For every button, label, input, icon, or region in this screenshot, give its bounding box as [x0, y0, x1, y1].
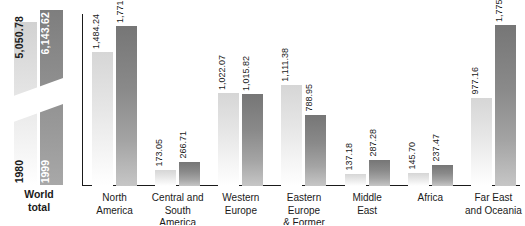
bar-value-1980: 1,022.07: [218, 55, 239, 90]
bar-1999: [242, 94, 263, 186]
bar-1980: [345, 174, 366, 186]
bar-value-1999: 237.47: [432, 134, 453, 162]
bar-1999: [495, 25, 516, 186]
bar-value-1980: 137.18: [345, 143, 366, 171]
world-total-year-1980: 1980: [14, 160, 37, 183]
bar-1999: [116, 26, 137, 186]
bar-value-1999: 1,015.82: [242, 56, 263, 91]
category-label-line1: Western: [209, 192, 272, 205]
category-label-line2: America: [83, 205, 146, 218]
regions-panel: 1,484.24 1,771.54 North America 173.05: [78, 14, 525, 225]
bar-1999: [305, 115, 326, 186]
bar-value-1980: 1,111.38: [281, 48, 302, 82]
category-label-line2: South America: [146, 205, 209, 226]
bar-group-middle-east: 137.18 287.28 Middle East: [336, 14, 399, 186]
category-label-north-america: North America: [83, 192, 146, 217]
bar-slot-1980: 1,111.38: [281, 14, 302, 186]
category-label-africa: Africa: [399, 192, 462, 205]
category-label-line2: Europe: [209, 205, 272, 218]
bar-slot-1999: 788.95: [305, 14, 326, 186]
category-label-western-europe: Western Europe: [209, 192, 272, 217]
bar-1999: [369, 160, 390, 186]
bar-value-1980: 173.05: [155, 139, 176, 167]
bar-group-far-east: 977.16 1,775.85 Far East and Oceania: [462, 14, 525, 186]
bar-slot-1980: 137.18: [345, 14, 366, 186]
category-label-line1: Middle: [336, 192, 399, 205]
category-label-middle-east: Middle East: [336, 192, 399, 217]
category-label-eastern-europe: Eastern Europe & Former USSR: [272, 192, 335, 225]
category-label-line1: Central and: [146, 192, 209, 205]
bar-slot-1980: 173.05: [155, 14, 176, 186]
world-total-value-1999: 6,143.62: [40, 12, 63, 54]
world-total-bars: 5,050.78 6,143.62 1980 1999: [14, 10, 68, 185]
world-total-caption-line1: World: [0, 188, 78, 201]
bar-group-eastern-europe: 1,111.38 788.95 Eastern Europe & Former …: [272, 14, 335, 186]
bar-slot-1980: 145.70: [408, 14, 429, 186]
category-label-line1: Eastern Europe: [272, 192, 335, 217]
category-label-line2: and Oceania: [462, 205, 525, 218]
bar-slot-1999: 1,775.85: [495, 14, 516, 186]
bar-group-north-america: 1,484.24 1,771.54 North America: [83, 14, 146, 186]
world-total-panel: 5,050.78 6,143.62 1980 1999 World total: [0, 0, 78, 225]
bar-1980: [408, 173, 429, 186]
category-label-line1: Africa: [399, 192, 462, 205]
bar-1980: [218, 93, 239, 186]
category-label-line2: & Former USSR: [272, 217, 335, 225]
world-total-caption: World total: [0, 188, 78, 214]
bar-value-1999: 788.95: [305, 84, 326, 112]
bar-slot-1999: 287.28: [369, 14, 390, 186]
bar-slot-1980: 1,484.24: [92, 14, 113, 186]
bar-slot-1980: 977.16: [471, 14, 492, 186]
category-label-line1: Far East: [462, 192, 525, 205]
bar-group-western-europe: 1,022.07 1,015.82 Western Europe: [209, 14, 272, 186]
world-total-year-1999: 1999: [40, 160, 63, 183]
bar-group-central-south-america: 173.05 266.71 Central and South America: [146, 14, 209, 186]
world-total-caption-line2: total: [0, 201, 78, 214]
bar-1980: [155, 170, 176, 186]
category-label-line1: North: [83, 192, 146, 205]
bar-value-1980: 977.16: [471, 67, 492, 95]
bar-value-1980: 145.70: [408, 142, 429, 170]
bar-1980: [92, 52, 113, 186]
world-total-value-1980: 5,050.78: [14, 16, 37, 58]
bar-1999: [179, 162, 200, 186]
bar-value-1999: 287.28: [369, 129, 390, 157]
bar-slot-1999: 1,015.82: [242, 14, 263, 186]
bar-slot-1999: 1,771.54: [116, 14, 137, 186]
bar-value-1999: 1,775.85: [495, 0, 516, 22]
bar-slot-1980: 1,022.07: [218, 14, 239, 186]
bar-groups: 1,484.24 1,771.54 North America 173.05: [83, 14, 525, 186]
category-label-central-south-america: Central and South America: [146, 192, 209, 225]
bar-1980: [281, 85, 302, 186]
bar-slot-1999: 266.71: [179, 14, 200, 186]
bar-1980: [471, 98, 492, 186]
bar-value-1980: 1,484.24: [92, 14, 113, 49]
bar-group-africa: 145.70 237.47 Africa: [399, 14, 462, 186]
bar-1999: [432, 165, 453, 186]
bar-value-1999: 1,771.54: [116, 0, 137, 23]
bar-slot-1999: 237.47: [432, 14, 453, 186]
bar-value-1999: 266.71: [179, 131, 200, 159]
bar-chart: 5,050.78 6,143.62 1980 1999 World total …: [0, 0, 525, 225]
category-label-line2: East: [336, 205, 399, 218]
category-label-far-east: Far East and Oceania: [462, 192, 525, 217]
